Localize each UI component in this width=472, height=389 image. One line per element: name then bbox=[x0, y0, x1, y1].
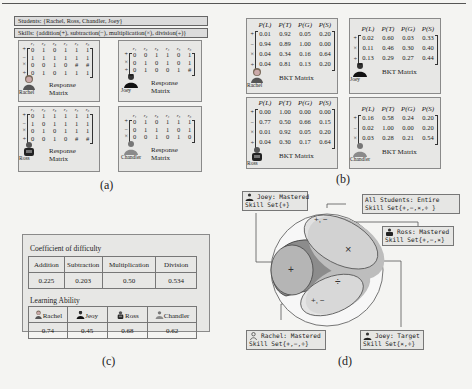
column-header: P(T) bbox=[378, 105, 398, 113]
matrix-row: +0.020.600.030.33 bbox=[350, 33, 438, 43]
matrix-row: +011111 bbox=[19, 112, 93, 120]
matrix-cell: 0.46 bbox=[378, 43, 398, 53]
matrix-cell: 0.11 bbox=[358, 43, 378, 53]
student-name: Chandler bbox=[350, 156, 370, 162]
matrix-caption: BKT Matrix bbox=[382, 68, 417, 76]
ability-table: Rachel Jeoy Ross Chandler 0.74 0.45 0.68… bbox=[28, 306, 197, 339]
column-header: P(S) bbox=[315, 99, 335, 107]
person-icon bbox=[385, 228, 394, 238]
matrix-cell: 0 bbox=[151, 66, 162, 74]
callout-all-students: All Students: Entire Skill Set{+,−,×,÷ } bbox=[362, 194, 460, 214]
matrix-cell: 0 bbox=[151, 118, 162, 126]
person-icon bbox=[363, 332, 372, 342]
matrix-cell: 0 bbox=[162, 66, 173, 74]
column-header: P(L) bbox=[255, 21, 275, 29]
matrix-caption: Response Matrix bbox=[49, 81, 93, 97]
matrix-cell: 0 bbox=[173, 59, 184, 67]
matrix-cell: 0.29 bbox=[378, 53, 398, 63]
matrix-cell: 1 bbox=[71, 54, 82, 62]
matrix-row: +0.010.920.050.20 bbox=[247, 29, 335, 39]
matrix-cell: 1 bbox=[162, 126, 173, 134]
matrix-caption: Response Matrix bbox=[151, 146, 195, 162]
panel-d-label: (d) bbox=[338, 354, 352, 369]
skill-set-venn-diagram: +, − × + ÷ +, − bbox=[236, 190, 472, 350]
ability-header-ross: Ross bbox=[107, 307, 148, 323]
matrix-bracket-right bbox=[90, 48, 93, 78]
skill-operator: + bbox=[247, 107, 255, 117]
matrix-row: −0.021.000.000.20 bbox=[350, 123, 438, 133]
column-header: P(L) bbox=[358, 105, 378, 113]
difficulty-value: 0.50 bbox=[102, 273, 156, 289]
matrix-row: +001101 bbox=[121, 51, 195, 59]
matrix-bracket-right bbox=[332, 109, 335, 149]
matrix-caption: Response Matrix bbox=[49, 147, 93, 163]
difficulty-value: 0.534 bbox=[156, 273, 197, 289]
person-icon bbox=[34, 312, 43, 320]
column-header: P(T) bbox=[275, 99, 295, 107]
matrix-cell: 0 bbox=[38, 135, 49, 143]
svg-text:+, −: +, − bbox=[311, 296, 325, 305]
matrix-row: ×0.110.460.300.40 bbox=[350, 43, 438, 53]
matrix-row: +010111 bbox=[121, 118, 195, 126]
matrix-cell: 1 bbox=[60, 120, 71, 128]
matrix-cell: 1 bbox=[71, 120, 82, 128]
svg-text:÷: ÷ bbox=[335, 276, 341, 287]
callout-ross-mastered: Ross: Mastered Skill Set{+,−,×} bbox=[382, 226, 454, 246]
skill-operator: + bbox=[19, 112, 27, 120]
matrix-cell: 1 bbox=[140, 118, 151, 126]
matrix-cell: 1 bbox=[173, 66, 184, 74]
matrix-row: −101111 bbox=[19, 120, 93, 128]
matrix-row: −0.940.891.000.00 bbox=[247, 39, 335, 49]
skill-operator: × bbox=[247, 49, 255, 59]
person-icon bbox=[155, 312, 164, 320]
matrix-cell: 0 bbox=[49, 46, 60, 54]
matrix-cell: 0 bbox=[140, 51, 151, 59]
matrix-row: −111111 bbox=[19, 54, 93, 62]
matrix-caption: Response Matrix bbox=[151, 79, 195, 95]
matrix-bracket-right bbox=[192, 53, 195, 76]
callout-rachel-mastered: Rachel: Mastered Skill Set{+,−,÷} bbox=[246, 330, 326, 350]
matrix-cell: 1 bbox=[140, 59, 151, 67]
matrix-row: +0.160.580.240.20 bbox=[350, 113, 438, 123]
matrix-row: ×0.040.340.160.64 bbox=[247, 49, 335, 59]
skill-operator: × bbox=[350, 43, 358, 53]
person-icon bbox=[76, 312, 85, 320]
matrix-cell: 1 bbox=[71, 69, 82, 77]
matrix-row: +010111 bbox=[19, 46, 93, 54]
skill-operator: × bbox=[121, 59, 129, 67]
response-matrix-rachel: r₁r₂r₃r₄r₅r₆+010111−111111×0010##÷010111… bbox=[19, 41, 93, 76]
column-header: P(L) bbox=[255, 99, 275, 107]
column-header: P(S) bbox=[315, 21, 335, 29]
student-name: Rachel bbox=[247, 82, 262, 88]
matrix-cell: 0.01 bbox=[255, 127, 275, 137]
matrix-cell: 0.28 bbox=[378, 133, 398, 143]
matrix-cell: 1 bbox=[162, 59, 173, 67]
column-header: P(T) bbox=[275, 21, 295, 29]
ability-value: 0.74 bbox=[29, 323, 68, 339]
matrix-cell: 0.04 bbox=[255, 49, 275, 59]
top-rule bbox=[2, 3, 466, 4]
difficulty-header: Division bbox=[156, 257, 197, 273]
skills-bar: Skills: {addition(+), subtraction(−), mu… bbox=[14, 28, 208, 38]
matrix-cell: 1 bbox=[71, 127, 82, 135]
ability-header-chandler: Chandler bbox=[148, 307, 197, 323]
matrix-cell: 1 bbox=[49, 54, 60, 62]
column-header: P(T) bbox=[378, 25, 398, 33]
matrix-bracket-right bbox=[435, 35, 438, 65]
column-header: P(G) bbox=[295, 21, 315, 29]
difficulty-header: Subtraction bbox=[64, 257, 102, 273]
matrix-cell: 0.01 bbox=[255, 29, 275, 39]
matrix-cell: 1 bbox=[151, 51, 162, 59]
matrix-cell: 0.05 bbox=[295, 127, 315, 137]
person-icon bbox=[116, 312, 125, 320]
matrix-cell: 0.92 bbox=[275, 127, 295, 137]
matrix-cell: 0.77 bbox=[255, 117, 275, 127]
ability-header-joey: Jeoy bbox=[67, 307, 107, 323]
matrix-cell: 1 bbox=[71, 46, 82, 54]
ability-value: 0.45 bbox=[67, 323, 107, 339]
matrix-caption: BKT Matrix bbox=[279, 152, 314, 160]
difficulty-table: Addition Subtraction Multiplication Divi… bbox=[28, 256, 197, 289]
matrix-cell: 0.60 bbox=[378, 33, 398, 43]
person-icon bbox=[249, 332, 258, 342]
matrix-cell: 1 bbox=[60, 127, 71, 135]
